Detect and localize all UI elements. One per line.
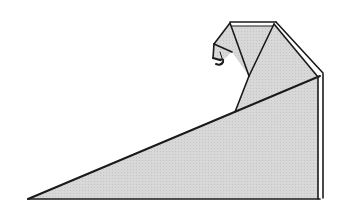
origami-bird-figure xyxy=(0,0,349,214)
origami-diagram xyxy=(0,0,349,214)
beak-front xyxy=(213,44,214,58)
